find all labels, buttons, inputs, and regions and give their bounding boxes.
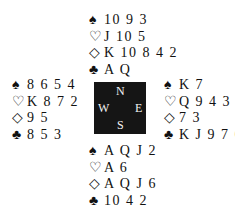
south-clubs: ♣10 4 2 — [89, 193, 157, 210]
north-clubs: ♣A Q — [89, 62, 178, 79]
compass-east-label: E — [135, 101, 142, 116]
east-diamonds: ◇7 3 — [164, 110, 235, 127]
south-hand: ♠A Q J 2 ♡A 6 ◇A Q J 6 ♣10 4 2 — [89, 143, 157, 209]
west-hearts: ♡K 8 7 2 — [12, 94, 79, 111]
east-hearts: ♡Q 9 4 3 — [164, 94, 235, 111]
compass-south-label: S — [117, 118, 124, 133]
east-hand: ♠K 7 ♡Q 9 4 3 ◇7 3 ♣K J 9 7 6 — [164, 77, 235, 143]
spade-icon: ♠ — [89, 143, 104, 160]
compass-west-label: W — [98, 101, 109, 116]
heart-icon: ♡ — [89, 29, 104, 46]
club-icon: ♣ — [12, 127, 27, 144]
north-diamonds: ◇K 10 8 4 2 — [89, 45, 178, 62]
diamond-icon: ◇ — [164, 110, 179, 127]
compass-table: N W E S — [94, 82, 146, 134]
west-diamonds: ◇9 5 — [12, 110, 79, 127]
spade-icon: ♠ — [12, 77, 27, 94]
south-diamonds: ◇A Q J 6 — [89, 176, 157, 193]
diamond-icon: ◇ — [89, 176, 104, 193]
heart-icon: ♡ — [164, 94, 179, 111]
north-hearts: ♡J 10 5 — [89, 29, 178, 46]
south-spades: ♠A Q J 2 — [89, 143, 157, 160]
north-spades: ♠10 9 3 — [89, 12, 178, 29]
south-hearts: ♡A 6 — [89, 160, 157, 177]
north-hand: ♠10 9 3 ♡J 10 5 ◇K 10 8 4 2 ♣A Q — [89, 12, 178, 78]
west-hand: ♠8 6 5 4 ♡K 8 7 2 ◇9 5 ♣8 5 3 — [12, 77, 79, 143]
east-clubs: ♣K J 9 7 6 — [164, 127, 235, 144]
heart-icon: ♡ — [12, 94, 27, 111]
heart-icon: ♡ — [89, 160, 104, 177]
club-icon: ♣ — [89, 193, 104, 210]
club-icon: ♣ — [164, 127, 179, 144]
spade-icon: ♠ — [164, 77, 179, 94]
west-clubs: ♣8 5 3 — [12, 127, 79, 144]
west-spades: ♠8 6 5 4 — [12, 77, 79, 94]
east-spades: ♠K 7 — [164, 77, 235, 94]
club-icon: ♣ — [89, 62, 104, 79]
diamond-icon: ◇ — [89, 45, 104, 62]
compass-north-label: N — [116, 84, 125, 99]
spade-icon: ♠ — [89, 12, 104, 29]
diamond-icon: ◇ — [12, 110, 27, 127]
